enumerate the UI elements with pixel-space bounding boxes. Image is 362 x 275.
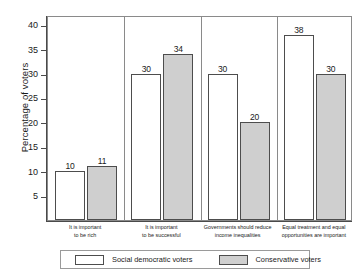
bar-value-label-2-1: 30 — [131, 65, 161, 74]
bar-value-label-2-2: 34 — [163, 45, 193, 54]
y-tick-label-40: 40 — [14, 21, 38, 30]
y-tick-label-15: 15 — [14, 143, 38, 152]
chart-legend: Social democratic voters Conservative vo… — [60, 250, 310, 269]
category-label-line: Governments should reduce — [200, 224, 276, 232]
bar-group-3-series-1 — [208, 74, 238, 220]
y-tick-label-25: 25 — [14, 94, 38, 103]
y-tick-label-20: 20 — [14, 119, 38, 128]
category-label-line: Equal treatment and equal — [276, 224, 352, 232]
y-tick-30 — [41, 75, 46, 76]
bar-group-1-series-2 — [87, 166, 117, 220]
x-axis-line — [46, 221, 352, 222]
category-label-line: opportunities are important — [276, 232, 352, 240]
group-separator-1 — [124, 17, 125, 220]
group-separator-3 — [277, 17, 278, 220]
bar-value-label-1-1: 10 — [55, 162, 85, 171]
y-tick-label-10: 10 — [14, 168, 38, 177]
y-axis-title: Percentage of voters — [19, 38, 30, 178]
y-tick-label-5: 5 — [14, 192, 38, 201]
category-label-line: to be rich — [47, 232, 123, 240]
bar-group-4-series-1 — [284, 35, 314, 220]
bar-value-label-3-1: 30 — [208, 65, 238, 74]
bar-group-4-series-2 — [316, 74, 346, 220]
category-label-2: It is importantto be successful — [123, 224, 199, 240]
legend-label-social-democratic: Social democratic voters — [112, 255, 193, 264]
legend-swatch-conservative — [219, 255, 248, 265]
y-tick-5 — [41, 197, 46, 198]
bar-value-label-4-1: 38 — [284, 26, 314, 35]
category-label-3: Governments should reduceincome inequali… — [200, 224, 276, 240]
category-label-line: It is important — [123, 224, 199, 232]
legend-item-social-democratic: Social democratic voters — [75, 255, 193, 265]
category-label-line: to be successful — [123, 232, 199, 240]
category-label-line: It is important — [47, 224, 123, 232]
category-label-line: income inequalities — [200, 232, 276, 240]
y-tick-20 — [41, 123, 46, 124]
plot-inner: 1011303430203830 — [48, 17, 351, 220]
category-label-4: Equal treatment and equalopportunities a… — [276, 224, 352, 240]
y-tick-40 — [41, 26, 46, 27]
y-tick-10 — [41, 172, 46, 173]
y-tick-25 — [41, 99, 46, 100]
group-separator-2 — [201, 17, 202, 220]
bar-group-1-series-1 — [55, 171, 85, 220]
plot-area: 1011303430203830 — [47, 16, 352, 221]
y-tick-label-35: 35 — [14, 46, 38, 55]
legend-item-conservative: Conservative voters — [219, 255, 321, 265]
y-tick-label-30: 30 — [14, 70, 38, 79]
chart-figure: Percentage of voters 510152025303540 101… — [0, 0, 362, 275]
category-label-1: It is importantto be rich — [47, 224, 123, 240]
bar-group-2-series-2 — [163, 54, 193, 220]
legend-swatch-social-democratic — [75, 255, 104, 265]
legend-label-conservative: Conservative voters — [256, 255, 321, 264]
bar-value-label-1-2: 11 — [87, 157, 117, 166]
bar-value-label-4-2: 30 — [316, 65, 346, 74]
y-tick-35 — [41, 50, 46, 51]
bar-value-label-3-2: 20 — [240, 113, 270, 122]
bar-group-2-series-1 — [131, 74, 161, 220]
bar-group-3-series-2 — [240, 122, 270, 220]
y-tick-15 — [41, 148, 46, 149]
